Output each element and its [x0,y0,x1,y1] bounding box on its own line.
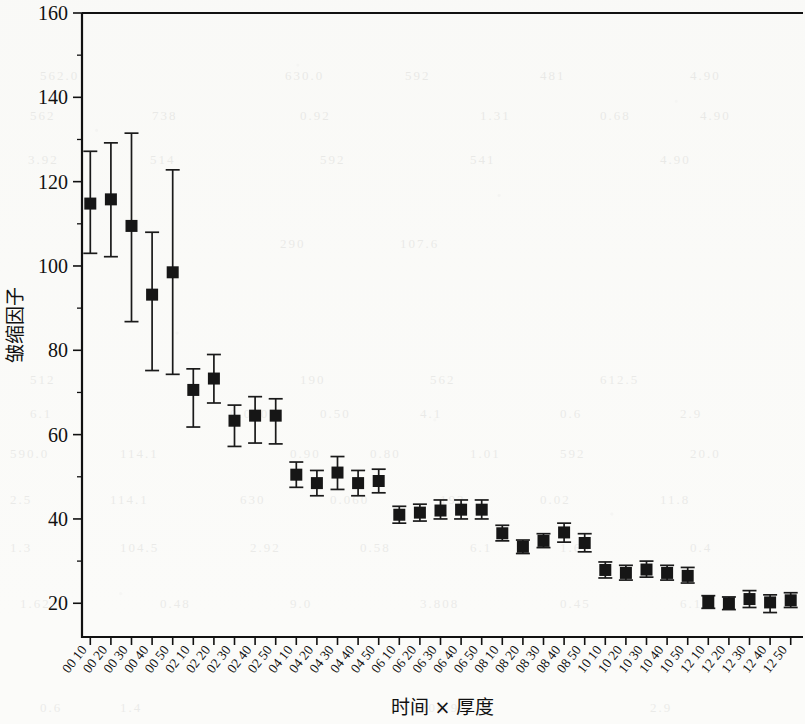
data-point [269,399,283,444]
data-point [516,540,530,553]
data-point [557,523,571,542]
data-point [701,596,715,609]
x-axis-title: 时间 × 厚度 [391,696,495,718]
data-point [619,565,633,580]
data-point [145,232,159,370]
data-point [537,534,551,548]
data-point [640,561,654,577]
y-tick-label: 100 [38,255,68,277]
data-point [495,525,509,541]
y-tick-label: 20 [48,592,68,614]
data-point [413,504,427,521]
data-point [104,143,118,257]
y-tick-label: 140 [38,86,68,108]
data-point [660,565,674,580]
y-axis-title: 皱缩因子 [4,287,26,363]
data-point [248,397,262,443]
data-point [351,470,365,495]
shrinkage-factor-scatter-chart: 2040608010012014016000 1000 2000 3000 40… [0,0,805,724]
y-tick-label: 40 [48,508,68,530]
y-tick-label: 160 [38,2,68,24]
data-point [289,462,303,487]
data-point [578,534,592,552]
data-point [372,469,386,493]
data-point [722,597,736,610]
data-point [598,562,612,578]
y-tick-label: 60 [48,424,68,446]
data-point [784,593,798,608]
data-point [207,355,221,403]
data-point [228,405,242,446]
data-point [83,151,97,253]
y-tick-label: 120 [38,171,68,193]
data-point [743,591,757,608]
data-point [475,500,489,519]
data-point [434,500,448,519]
chart-canvas: 2040608010012014016000 1000 2000 3000 40… [0,0,805,724]
data-point [681,567,695,583]
data-point [186,369,200,427]
y-tick-label: 80 [48,339,68,361]
data-point [763,595,777,613]
data-point [166,170,180,374]
data-point [392,506,406,523]
data-point [125,133,139,321]
data-point [331,457,345,490]
data-point [310,470,324,495]
data-point [454,500,468,519]
x-tick-label: 12 50 [760,642,791,675]
